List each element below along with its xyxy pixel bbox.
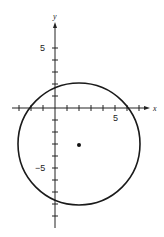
coordinate-plane: x y 5 5 −5 bbox=[0, 0, 164, 237]
x-axis-label: x bbox=[152, 104, 157, 113]
y-tick-label-neg5: −5 bbox=[35, 163, 45, 173]
y-tick-label-5: 5 bbox=[40, 43, 45, 53]
center-point bbox=[77, 143, 81, 147]
y-axis-arrow-icon bbox=[53, 22, 57, 28]
y-axis bbox=[52, 22, 58, 228]
x-axis-arrow-icon bbox=[144, 106, 150, 110]
x-tick-label-5: 5 bbox=[113, 113, 118, 123]
y-axis-label: y bbox=[52, 12, 57, 21]
